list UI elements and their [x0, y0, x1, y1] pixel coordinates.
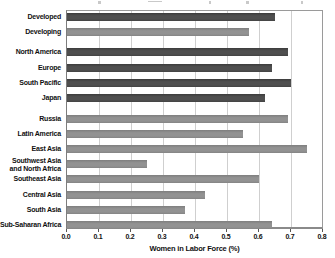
- tick-label-0.2: 0.2: [125, 233, 134, 240]
- bar-japan: [67, 94, 265, 102]
- bar-chart-figure: DevelopedDevelopingNorth AmericaEuropeSo…: [0, 0, 335, 258]
- bar-south-pacific: [67, 79, 291, 87]
- category-label-europe: Europe: [0, 64, 61, 72]
- bar-east-asia: [67, 145, 307, 153]
- tick-mark-0.3: [162, 229, 163, 232]
- tick-mark-0.7: [290, 229, 291, 232]
- bar-europe: [67, 64, 272, 72]
- bar-developing: [67, 28, 249, 36]
- tick-label-0.6: 0.6: [253, 233, 262, 240]
- category-label-east-asia: East Asia: [0, 145, 61, 153]
- bar-developed: [67, 13, 275, 21]
- tick-mark-0.8: [322, 229, 323, 232]
- bar-southeast-asia: [67, 175, 259, 183]
- bar-sub-saharan-africa: [67, 221, 272, 229]
- category-label-developed: Developed: [0, 13, 61, 21]
- bar-south-asia: [67, 206, 185, 214]
- category-label-japan: Japan: [0, 94, 61, 102]
- tick-mark-0.4: [194, 229, 195, 232]
- category-label-developing: Developing: [0, 28, 61, 36]
- tick-label-0.3: 0.3: [157, 233, 166, 240]
- category-label-southeast-asia: Southeast Asia: [0, 176, 61, 184]
- tick-label-0.8: 0.8: [317, 233, 326, 240]
- bar-central-asia: [67, 191, 205, 199]
- tick-label-0.1: 0.1: [93, 233, 102, 240]
- gridline-0.7: [291, 11, 292, 227]
- tick-mark-0.1: [98, 229, 99, 232]
- category-labels: DevelopedDevelopingNorth AmericaEuropeSo…: [0, 0, 63, 258]
- bar-north-america: [67, 48, 288, 56]
- tick-mark-0.5: [226, 229, 227, 232]
- tick-mark-0.6: [258, 229, 259, 232]
- tick-label-0.0: 0.0: [61, 233, 70, 240]
- category-label-russia: Russia: [0, 115, 61, 123]
- bar-latin-america: [67, 130, 243, 138]
- tick-label-0.7: 0.7: [285, 233, 294, 240]
- bar-southwest-asia-and-north-africa: [67, 160, 147, 168]
- category-label-south-pacific: South Pacific: [0, 79, 61, 87]
- category-label-latin-america: Latin America: [0, 130, 61, 138]
- tick-mark-0.2: [130, 229, 131, 232]
- category-label-central-asia: Central Asia: [0, 191, 61, 199]
- tick-label-0.5: 0.5: [221, 233, 230, 240]
- tick-label-0.4: 0.4: [189, 233, 198, 240]
- category-label-sub-saharan-africa: Sub-Saharan Africa: [0, 221, 61, 229]
- category-label-north-america: North America: [0, 49, 61, 57]
- plot-area: [66, 10, 323, 229]
- tick-mark-0.0: [66, 229, 67, 232]
- bar-russia: [67, 115, 288, 123]
- category-label-southwest-asia-and-north-africa: Southwest Asiaand North Africa: [0, 157, 61, 172]
- x-axis-title: Women in Labor Force (%): [66, 244, 323, 253]
- category-label-south-asia: South Asia: [0, 206, 61, 214]
